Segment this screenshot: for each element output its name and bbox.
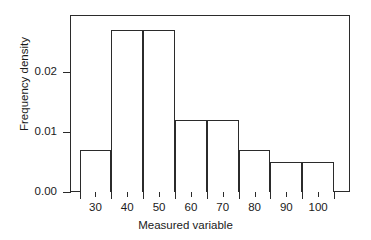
x-axis-tick bbox=[95, 192, 96, 197]
x-axis-title: Measured variable bbox=[0, 219, 371, 231]
x-axis-tick bbox=[286, 192, 287, 197]
y-axis-tick-label: 0.01 bbox=[35, 126, 57, 138]
x-axis-tick-edge bbox=[143, 192, 144, 199]
plot-frame bbox=[70, 15, 350, 192]
x-axis-tick-edge bbox=[175, 192, 176, 199]
x-axis-tick bbox=[255, 192, 256, 197]
x-axis-tick bbox=[159, 192, 160, 197]
x-axis-tick bbox=[318, 192, 319, 197]
x-axis-tick-label: 100 bbox=[298, 201, 338, 213]
y-axis-tick bbox=[63, 132, 71, 133]
x-axis-tick bbox=[223, 192, 224, 197]
x-axis-tick-edge bbox=[270, 192, 271, 199]
x-axis-tick-edge bbox=[334, 192, 335, 199]
y-axis-tick bbox=[63, 192, 71, 193]
x-axis-tick-edge bbox=[111, 192, 112, 199]
y-axis-tick bbox=[63, 72, 71, 73]
x-axis-tick-edge bbox=[80, 192, 81, 199]
histogram-figure: 0.000.010.02 Frequency density 304050607… bbox=[0, 0, 371, 240]
x-axis-tick bbox=[191, 192, 192, 197]
x-axis-tick-edge bbox=[302, 192, 303, 199]
x-axis-tick bbox=[127, 192, 128, 197]
y-axis-tick-label: 0.00 bbox=[35, 186, 57, 198]
y-axis-tick-label: 0.02 bbox=[35, 66, 57, 78]
x-axis-tick-edge bbox=[207, 192, 208, 199]
x-axis-tick-edge bbox=[239, 192, 240, 199]
y-axis-title: Frequency density bbox=[18, 14, 30, 154]
